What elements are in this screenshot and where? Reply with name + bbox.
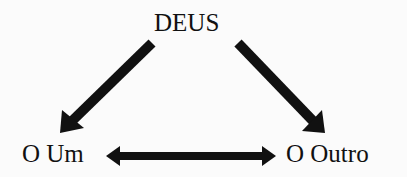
- arrow-deus-to-um: [60, 43, 152, 133]
- arrow-um-outro-bidirectional: [106, 146, 276, 166]
- arrow-deus-to-outro: [238, 43, 325, 133]
- arrows: [0, 0, 407, 177]
